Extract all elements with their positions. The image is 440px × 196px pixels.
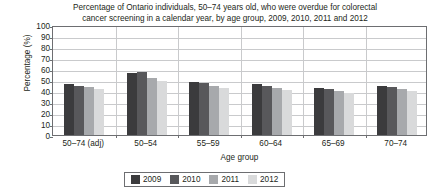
bar — [137, 72, 147, 135]
y-axis-tick-label: 30 — [24, 100, 50, 108]
chart-legend: 2009201020112012 — [124, 172, 285, 187]
x-axis-tick-label: 60–64 — [240, 139, 303, 148]
legend-swatch — [248, 175, 257, 184]
legend-label: 2011 — [221, 175, 239, 184]
y-axis-tick-label: 20 — [24, 111, 50, 119]
bar — [377, 86, 387, 136]
bar — [314, 88, 324, 135]
x-axis-label: Age group — [52, 153, 427, 162]
bar-group — [116, 27, 179, 135]
legend-item[interactable]: 2011 — [209, 175, 239, 184]
bar — [147, 78, 157, 135]
bar — [407, 91, 417, 135]
bar — [64, 84, 74, 135]
bar-group — [303, 27, 366, 135]
legend-item[interactable]: 2012 — [248, 175, 278, 184]
x-axis-tick-label: 50–74 (adj) — [52, 139, 115, 148]
bar — [344, 93, 354, 135]
legend-label: 2012 — [260, 175, 278, 184]
legend-swatch — [209, 175, 218, 184]
y-axis-tick-label: 40 — [24, 89, 50, 97]
x-axis-tick-mark — [241, 135, 242, 138]
bar — [84, 87, 94, 135]
x-axis-tick-mark — [178, 135, 179, 138]
bar — [262, 86, 272, 136]
bar — [334, 91, 344, 135]
bar — [209, 86, 219, 136]
y-axis-tick-label: 100 — [24, 23, 50, 31]
x-axis-tick-mark — [303, 135, 304, 138]
bar — [127, 73, 137, 135]
y-axis-tick-label: 50 — [24, 78, 50, 86]
y-axis-tick-label: 60 — [24, 67, 50, 75]
bar-group — [53, 27, 116, 135]
bar — [252, 84, 262, 135]
bar — [94, 89, 104, 135]
bar — [324, 89, 334, 135]
bar — [199, 83, 209, 135]
bar — [219, 88, 229, 135]
x-axis-tick-label: 65–69 — [302, 139, 365, 148]
legend-item[interactable]: 2010 — [170, 175, 200, 184]
legend-item[interactable]: 2009 — [131, 175, 161, 184]
x-axis-tick-label: 55–59 — [177, 139, 240, 148]
legend-label: 2009 — [143, 175, 161, 184]
y-axis-tick-label: 80 — [24, 45, 50, 53]
bar — [282, 90, 292, 135]
y-axis-tick-label: 0 — [24, 133, 50, 141]
legend-swatch — [170, 175, 179, 184]
chart-title: Percentage of Ontario individuals, 50–74… — [30, 2, 420, 24]
legend-label: 2010 — [182, 175, 200, 184]
bar-group — [178, 27, 241, 135]
chart-figure: Percentage of Ontario individuals, 50–74… — [0, 0, 440, 196]
y-axis-tick-mark — [50, 137, 53, 138]
y-axis-tick-label: 10 — [24, 122, 50, 130]
bar — [189, 82, 199, 135]
bar — [387, 87, 397, 135]
x-axis-tick-label: 50–54 — [115, 139, 178, 148]
bar — [74, 86, 84, 136]
x-axis-tick-mark — [366, 135, 367, 138]
chart-title-line-2: cancer screening in a calendar year, by … — [30, 13, 420, 24]
legend-swatch — [131, 175, 140, 184]
bar-group — [366, 27, 429, 135]
y-axis-tick-label: 90 — [24, 34, 50, 42]
x-axis-tick-mark — [116, 135, 117, 138]
bar — [397, 89, 407, 135]
y-axis-tick-label: 70 — [24, 56, 50, 64]
bar — [272, 88, 282, 135]
plot-area: 1009080706050403020100 — [52, 26, 427, 136]
chart-title-line-1: Percentage of Ontario individuals, 50–74… — [30, 2, 420, 13]
bar — [157, 81, 167, 135]
bar-group — [241, 27, 304, 135]
x-axis-tick-label: 70–74 — [365, 139, 428, 148]
